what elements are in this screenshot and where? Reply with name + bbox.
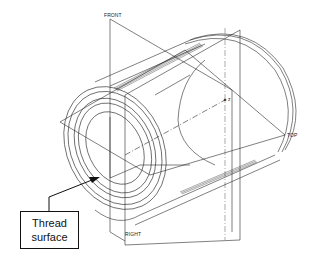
cylinder-silhouette [95, 38, 280, 225]
front-plane-label: FRONT [104, 12, 122, 18]
callout-leader [49, 180, 92, 211]
thread-hatching [114, 43, 257, 194]
thread-surface-callout: Thread surface [20, 211, 79, 249]
center-axis [125, 100, 225, 155]
callout-line-1: Thread [32, 216, 67, 230]
back-face [178, 34, 296, 165]
top-datum-plane [60, 50, 285, 175]
top-plane-label: TOP [287, 132, 298, 138]
origin-point-icon [224, 99, 226, 101]
callout-line-2: surface [31, 230, 67, 244]
right-plane-label: RIGHT [125, 231, 141, 237]
origin-label: z [228, 96, 231, 102]
front-face [44, 70, 185, 227]
